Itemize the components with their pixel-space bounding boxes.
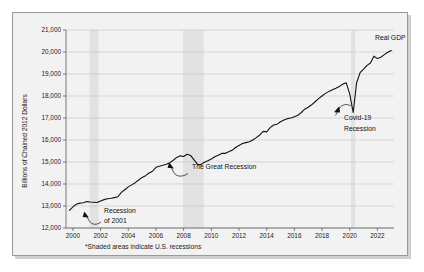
- annotation-great-recession: The Great Recession: [168, 162, 257, 176]
- recession-shaded-bands: [90, 30, 356, 228]
- y-tick-label: 19,000: [41, 70, 61, 77]
- great-recession-label: The Great Recession: [192, 163, 256, 170]
- arrowhead-recession-2001: [83, 212, 89, 218]
- x-tick-label: 2016: [287, 232, 302, 239]
- y-tick-label: 12,000: [41, 224, 61, 231]
- chart-figure: 12,00013,00014,00015,00016,00017,00018,0…: [12, 12, 408, 256]
- x-tick-label: 2014: [260, 232, 275, 239]
- y-axis-title: Billions of Chained 2012 Dollars: [21, 94, 28, 188]
- arrowhead-covid-recession: [334, 106, 340, 112]
- y-tick-label: 21,000: [41, 26, 61, 33]
- recession-2001-line2: of 2001: [104, 217, 127, 224]
- y-tick-label: 17,000: [41, 114, 61, 121]
- covid-recession-line1: Covid-19: [344, 114, 371, 121]
- x-tick-label: 2010: [204, 232, 219, 239]
- y-tick-label: 15,000: [41, 158, 61, 165]
- y-tick-label: 14,000: [41, 180, 61, 187]
- x-tick-label: 2004: [121, 232, 136, 239]
- y-tick-label: 16,000: [41, 136, 61, 143]
- x-tick-label: 2012: [232, 232, 247, 239]
- x-axis-tick-labels: 2000200220042006200820102012201420162018…: [66, 228, 385, 239]
- series-inline-label: Real GDP: [375, 34, 406, 41]
- x-tick-label: 2008: [177, 232, 192, 239]
- x-tick-label: 2002: [93, 232, 108, 239]
- chart-footnote: *Shaded areas indicate U.S. recessions: [85, 243, 202, 250]
- x-tick-label: 2022: [370, 232, 385, 239]
- recession-2001-line1: Recession: [104, 207, 136, 214]
- recession-band: [183, 30, 204, 228]
- x-tick-label: 2018: [315, 232, 330, 239]
- y-axis-tick-labels: 12,00013,00014,00015,00016,00017,00018,0…: [41, 26, 66, 231]
- x-tick-label: 2006: [149, 232, 164, 239]
- covid-recession-line2: Recession: [344, 125, 376, 132]
- y-tick-label: 20,000: [41, 48, 61, 55]
- x-tick-label: 2020: [343, 232, 358, 239]
- x-tick-label: 2000: [66, 232, 81, 239]
- recession-band: [90, 30, 99, 228]
- y-tick-label: 13,000: [41, 202, 61, 209]
- y-tick-label: 18,000: [41, 92, 61, 99]
- real-gdp-line: [69, 50, 391, 210]
- real-gdp-line-chart: 12,00013,00014,00015,00016,00017,00018,0…: [13, 13, 407, 255]
